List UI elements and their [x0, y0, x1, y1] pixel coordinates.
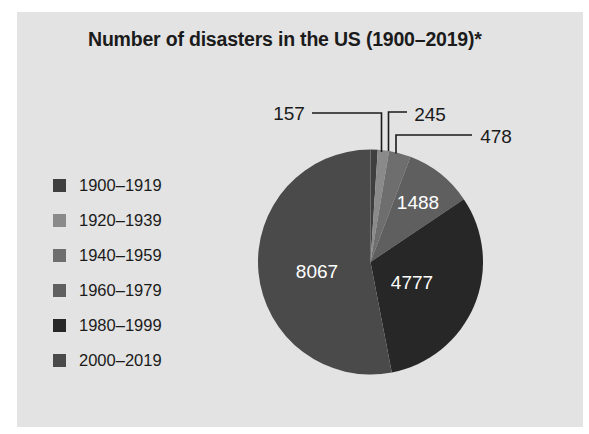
legend-swatch-icon [53, 319, 66, 332]
pie-value-label-478: 478 [480, 126, 512, 148]
legend-item-label: 1940–1959 [79, 246, 162, 265]
legend-item-2000-2019[interactable]: 2000–2019 [53, 343, 193, 378]
legend-item-label: 1980–1999 [79, 316, 162, 335]
legend-item-1960-1979[interactable]: 1960–1979 [53, 273, 193, 308]
legend-item-label: 1960–1979 [79, 281, 162, 300]
legend-swatch-icon [53, 214, 66, 227]
pie-value-label-8067: 8067 [296, 261, 338, 283]
legend-item-label: 2000–2019 [79, 351, 162, 370]
legend-swatch-icon [53, 249, 66, 262]
pie-value-label-245: 245 [414, 104, 446, 126]
chart-title: Number of disasters in the US (1900–2019… [88, 28, 482, 51]
legend-swatch-icon [53, 284, 66, 297]
pie-value-label-157: 157 [273, 103, 305, 125]
legend-item-1900-1919[interactable]: 1900–1919 [53, 168, 193, 203]
chart-legend: 1900–1919 1920–1939 1940–1959 1960–1979 … [53, 168, 193, 378]
pie-value-label-1488: 1488 [397, 192, 439, 214]
legend-swatch-icon [53, 354, 66, 367]
legend-item-1940-1959[interactable]: 1940–1959 [53, 238, 193, 273]
legend-item-1980-1999[interactable]: 1980–1999 [53, 308, 193, 343]
legend-swatch-icon [53, 179, 66, 192]
legend-item-label: 1900–1919 [79, 176, 162, 195]
legend-item-1920-1939[interactable]: 1920–1939 [53, 203, 193, 238]
legend-item-label: 1920–1939 [79, 211, 162, 230]
chart-screenshot: Number of disasters in the US (1900–2019… [0, 0, 589, 434]
pie-value-label-4777: 4777 [391, 272, 433, 294]
